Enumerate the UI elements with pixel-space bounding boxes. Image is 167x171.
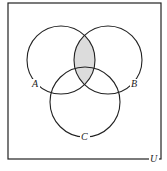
- universe-label: U: [150, 153, 158, 164]
- set-label-b: B: [131, 78, 137, 89]
- venn-diagram: A B C U: [0, 0, 167, 171]
- set-label-c: C: [81, 131, 88, 142]
- set-label-a: A: [31, 78, 39, 89]
